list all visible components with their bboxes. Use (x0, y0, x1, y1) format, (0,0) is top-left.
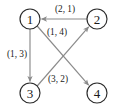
edge-label-1-to-4: (3, 2) (48, 74, 68, 85)
diagram-canvas: (2, 1) (1, 3) (1, 4) (3, 2) 1 2 3 4 (0, 0, 115, 111)
edge-label-3-to-2: (1, 4) (47, 27, 67, 38)
node-2[interactable]: 2 (87, 9, 107, 29)
edge-label-2-to-1: (2, 1) (55, 4, 75, 15)
node-2-label: 2 (94, 12, 101, 27)
edge-labels-layer: (2, 1) (1, 3) (1, 4) (3, 2) (7, 4, 75, 85)
node-3-label: 3 (27, 86, 34, 101)
node-3[interactable]: 3 (20, 83, 40, 103)
edge-label-1-to-3: (1, 3) (7, 49, 27, 60)
graph-svg: (2, 1) (1, 3) (1, 4) (3, 2) 1 2 3 4 (0, 0, 115, 111)
node-1[interactable]: 1 (20, 9, 40, 29)
node-4-label: 4 (94, 86, 101, 101)
node-1-label: 1 (27, 12, 34, 27)
node-4[interactable]: 4 (87, 83, 107, 103)
